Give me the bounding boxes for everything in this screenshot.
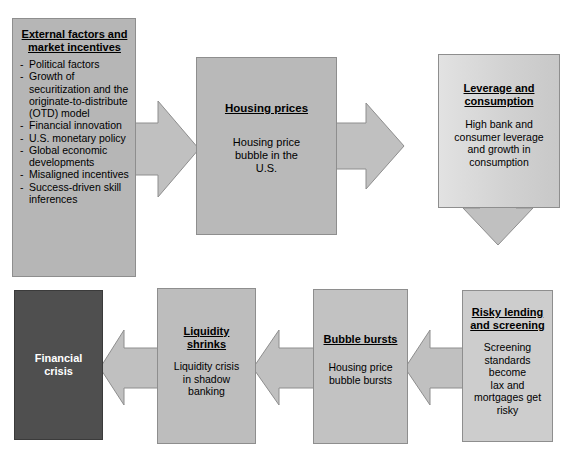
node-liquidity-shrinks[interactable]: Liquidity shrinks Liquidity crisis in sh… [157, 288, 256, 444]
list-item: - Financial innovation [20, 119, 129, 131]
node-risky-lending-title: Risky lending and screening [470, 306, 545, 332]
node-external-factors-title: External factors and market incentives [22, 28, 128, 54]
list-item: - Success-driven skill inferences [20, 181, 129, 206]
arrow-bubble-to-liquidity [252, 330, 316, 406]
bullet-text: Political factors [29, 58, 129, 70]
node-leverage-consumption-body: High bank and consumer leverage and grow… [454, 118, 543, 168]
node-housing-prices[interactable]: Housing prices Housing price bubble in t… [196, 57, 337, 235]
list-item: - Political factors [20, 58, 129, 70]
node-bubble-bursts-body: Housing price bubble bursts [328, 361, 392, 386]
list-item: - Global economic developments [20, 144, 129, 169]
node-liquidity-shrinks-body: Liquidity crisis in shadow banking [174, 360, 239, 398]
node-financial-crisis-label: Financial crisis [35, 352, 83, 378]
node-liquidity-shrinks-title: Liquidity shrinks [184, 325, 230, 351]
list-item: - Growth of securitization and the origi… [20, 70, 129, 119]
bullet-text: Financial innovation [29, 119, 129, 131]
list-item: - U.S. monetary policy [20, 132, 129, 144]
bullet-text: Growth of securitization and the origina… [29, 70, 129, 119]
node-risky-lending[interactable]: Risky lending and screening Screening st… [462, 290, 553, 442]
bullet-text: Global economic developments [29, 144, 129, 169]
bullet-text: U.S. monetary policy [29, 132, 129, 144]
arrow-risky-to-bubble [404, 330, 466, 406]
arrow-housing-to-leverage [333, 103, 405, 189]
arrow-liquidity-to-crisis [99, 330, 159, 406]
node-bubble-bursts[interactable]: Bubble bursts Housing price bubble burst… [313, 289, 408, 444]
node-leverage-consumption-title: Leverage and consumption [464, 82, 535, 108]
node-external-factors[interactable]: External factors and market incentives -… [12, 18, 136, 277]
bullet-marker: - [20, 58, 29, 70]
node-external-factors-bullets: - Political factors - Growth of securiti… [20, 58, 129, 205]
node-leverage-consumption[interactable]: Leverage and consumption High bank and c… [438, 54, 560, 208]
bullet-text: Misaligned incentives [29, 168, 129, 180]
bullet-marker: - [20, 119, 29, 131]
bullet-marker: - [20, 168, 29, 180]
node-bubble-bursts-title: Bubble bursts [324, 333, 398, 346]
node-housing-prices-body: Housing price bubble in the U.S. [233, 136, 300, 176]
list-item: - Misaligned incentives [20, 168, 129, 180]
bullet-text: Success-driven skill inferences [29, 181, 129, 206]
node-housing-prices-title: Housing prices [225, 102, 308, 116]
bullet-marker: - [20, 70, 29, 119]
node-financial-crisis[interactable]: Financial crisis [14, 290, 103, 440]
bullet-marker: - [20, 132, 29, 144]
node-risky-lending-body: Screening standards become lax and mortg… [474, 341, 541, 417]
bullet-marker: - [20, 181, 29, 206]
bullet-marker: - [20, 144, 29, 169]
flowchart-diagram: External factors and market incentives -… [0, 0, 573, 454]
